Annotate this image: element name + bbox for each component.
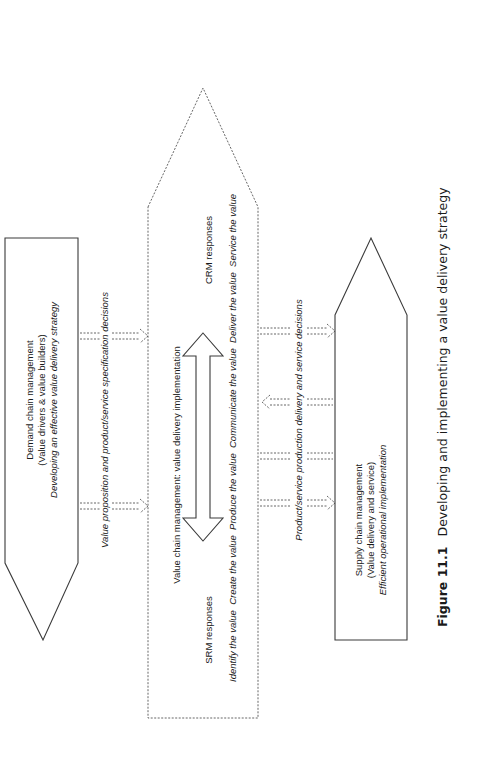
left-connector-label: Value proposition and product/service sp… <box>99 292 110 548</box>
left-connector-arrow-top <box>80 329 148 343</box>
demand-chain-description: Developing an effective value delivery s… <box>48 301 59 498</box>
value-chain-steps: Identify the value Create the value Prod… <box>227 194 238 682</box>
supply-chain-description: Efficient operational implementation <box>377 445 388 596</box>
demand-chain-title: Demand chain management <box>24 340 35 460</box>
srm-responses-label: SRM responses <box>203 596 214 664</box>
figure-number: Figure 11.1 <box>435 546 450 627</box>
left-connector-arrow-bottom <box>80 499 148 513</box>
supply-chain-title: Supply chain management <box>353 463 364 576</box>
value-delivery-diagram: Demand chain management (Value drivers &… <box>0 0 501 762</box>
supply-chain-arrow <box>335 238 407 640</box>
supply-chain-subtitle: (Value delivery and service) <box>365 462 376 579</box>
crm-responses-label: CRM responses <box>203 216 214 284</box>
figure-caption: Figure 11.1 Developing and implementing … <box>433 187 450 627</box>
demand-chain-subtitle: (Value drivers & value builders) <box>36 334 47 465</box>
value-chain-title: Value chain management: value delivery i… <box>171 346 182 583</box>
figure-title: Developing and implementing a value deli… <box>435 187 450 537</box>
right-connector-label: Product/service production delivery and … <box>293 299 304 541</box>
